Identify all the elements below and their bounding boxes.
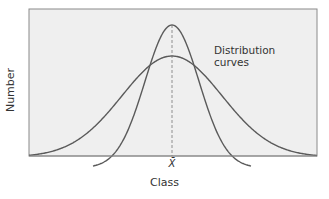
distribution-curves-annotation: Distribution curves [214, 44, 275, 68]
distribution-chart [0, 0, 329, 199]
annotation-line-2: curves [214, 56, 275, 68]
annotation-line-1: Distribution [214, 44, 275, 56]
x-mean-tick-label: X̄ [162, 158, 182, 169]
y-axis-title-text: Number [4, 68, 17, 112]
x-axis-title: Class [0, 176, 329, 189]
plot-frame [29, 9, 317, 156]
y-axis-title: Number [2, 60, 18, 120]
